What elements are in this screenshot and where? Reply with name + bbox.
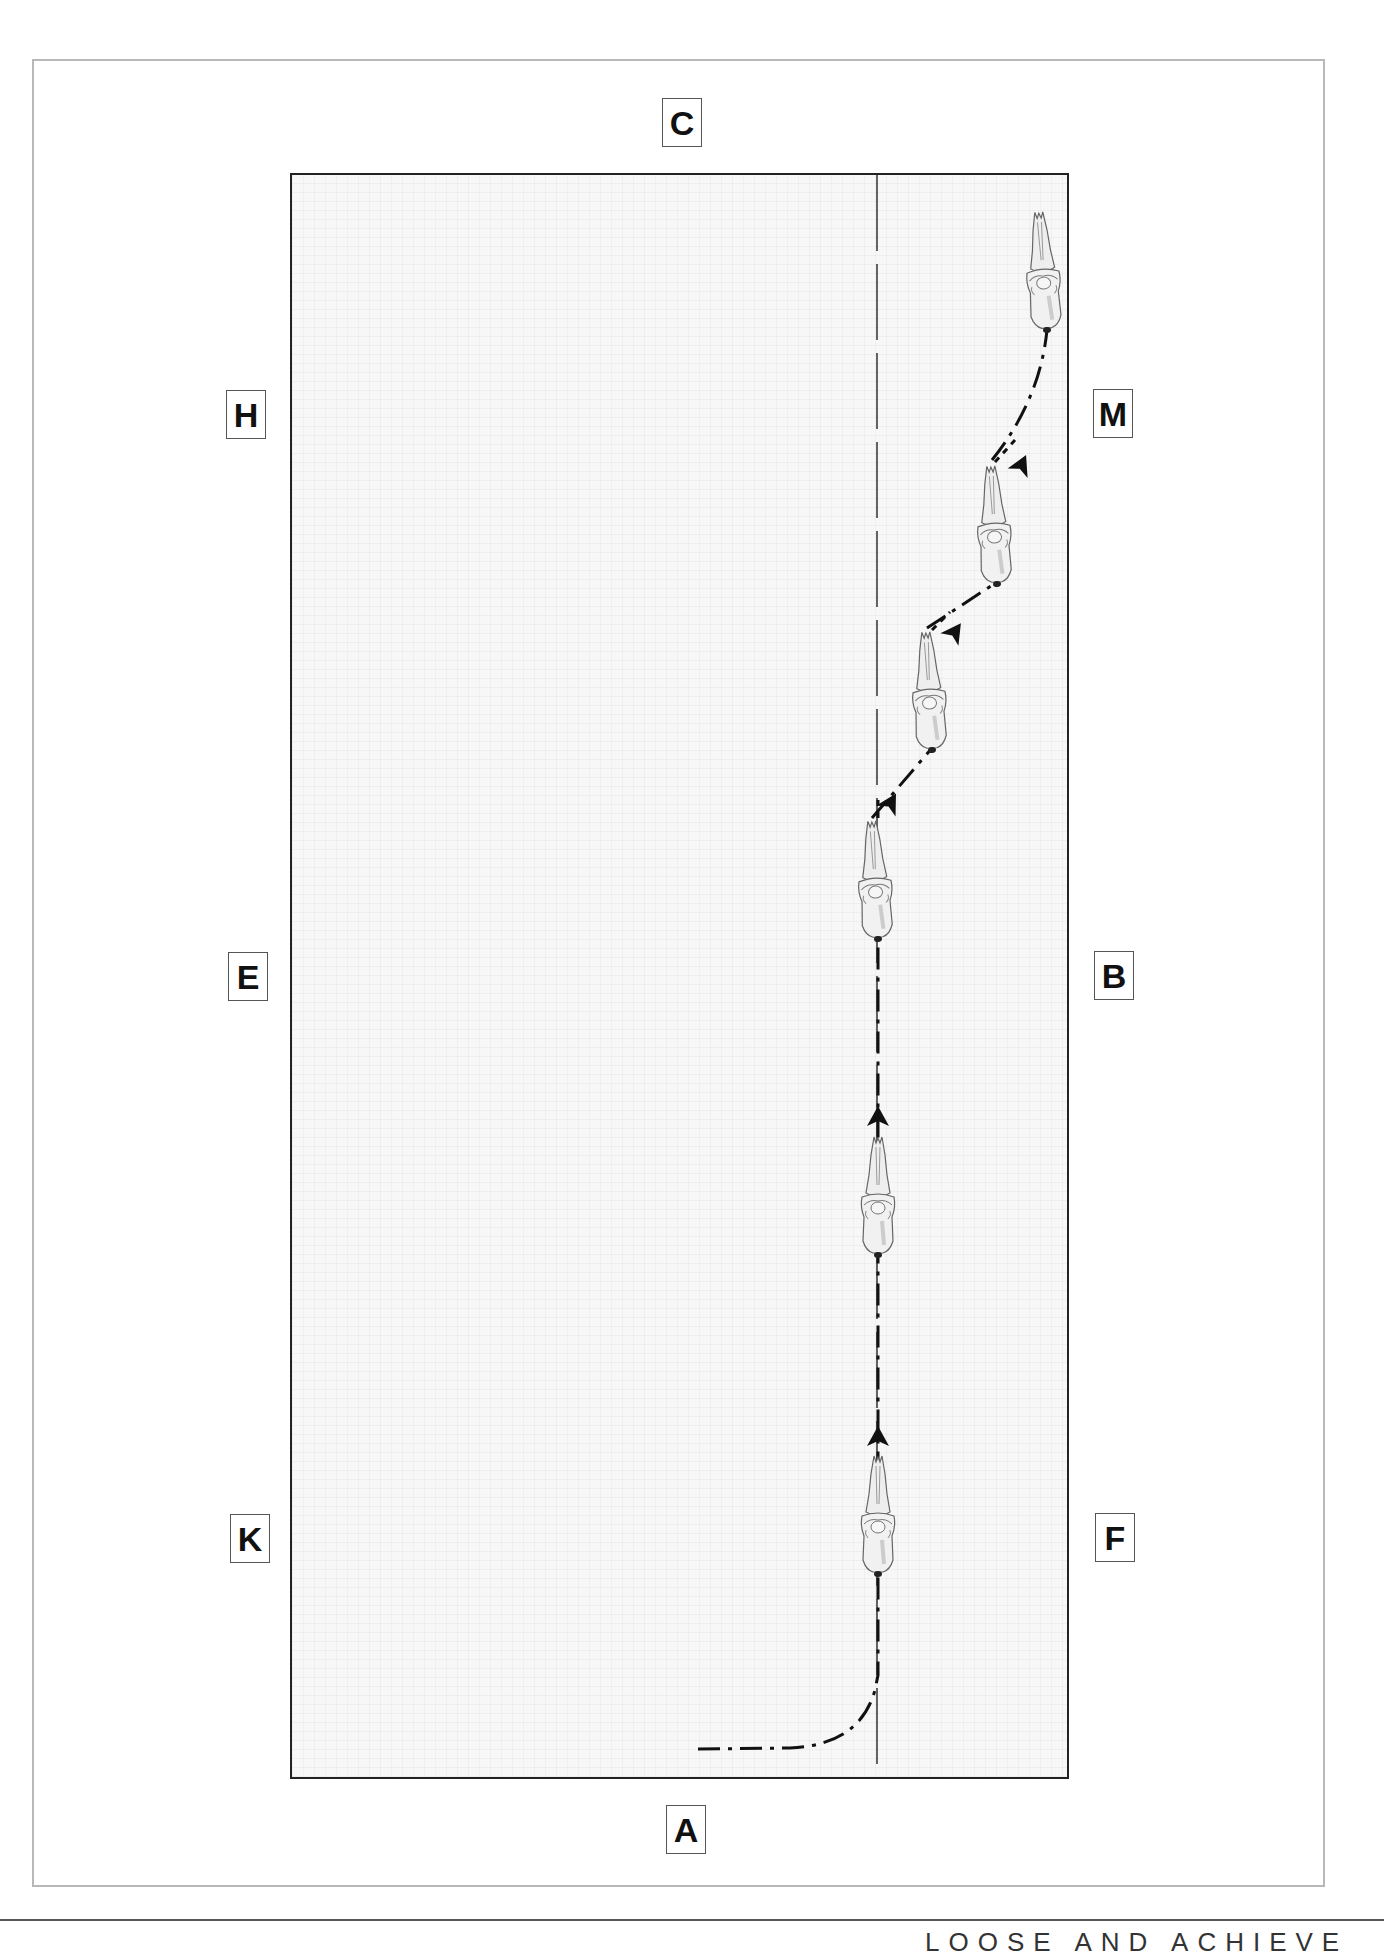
footer-divider	[0, 1919, 1384, 1921]
footer-caption: LOOSE AND ACHIEVE	[925, 1927, 1348, 1955]
horse-rider-icon	[1022, 211, 1064, 334]
direction-arrow-icon	[940, 617, 969, 646]
direction-arrow-icon	[876, 788, 905, 816]
horse-rider-icon	[909, 631, 949, 754]
horse-rider-icon	[974, 465, 1014, 588]
horse-rider-icon	[861, 1456, 894, 1577]
horse-rider-icon	[855, 820, 895, 943]
direction-arrow-icon	[1008, 450, 1036, 477]
horse-rider-icon	[861, 1137, 894, 1258]
